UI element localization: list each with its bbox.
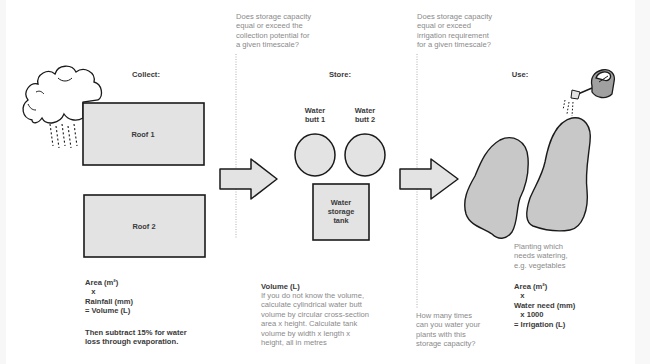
collect-evaporation-note: Then subtract 15% for water loss through… (85, 328, 187, 347)
store-formula-title: Volume (L) (261, 282, 300, 291)
collect-heading: Collect: (116, 70, 176, 79)
label-line: tank (313, 216, 369, 225)
formula-text-line: calculate cylindrical water butt (261, 300, 369, 309)
question-line: Does storage capacity (236, 12, 311, 21)
formula-text-line: If you do not know the volume, (261, 291, 369, 300)
formula-text-line: height, all in metres (261, 338, 369, 347)
collect-formula: Area (m²) x Rainfall (mm) = Volume (L) (85, 278, 133, 316)
divider-2-question: Does storage capacity equal or exceed ir… (417, 12, 492, 50)
question-line: How many times (416, 311, 480, 320)
use-formula: Area (m²) x Water need (mm) x 1000 = Irr… (514, 282, 575, 329)
arrow-right-icon (220, 159, 277, 199)
note-line: Then subtract 15% for water (85, 328, 187, 337)
label-line: butt 2 (345, 115, 385, 124)
use-formula-line: Area (m²) (514, 282, 575, 291)
roof-2-label: Roof 2 (104, 222, 184, 231)
use-formula-line: x (514, 291, 575, 300)
formula-text-line: volume by width x length x (261, 329, 369, 338)
question-line: can you water your (416, 320, 480, 329)
use-formula-line: Water need (mm) (514, 301, 575, 310)
formula-text-line: area x height. Calculate tank (261, 319, 369, 328)
planting-label-line: e.g. vegetables (514, 261, 568, 270)
question-line: equal or exceed the (236, 21, 311, 30)
planting-bed-2-shape (527, 118, 591, 231)
watering-can-icon (563, 70, 614, 116)
divider-1-question: Does storage capacity equal or exceed th… (236, 12, 311, 50)
store-formula-text: If you do not know the volume, calculate… (261, 291, 369, 347)
use-formula-line: = Irrigation (L) (514, 320, 575, 329)
label-line: Water (345, 106, 385, 115)
store-heading: Store: (310, 70, 370, 79)
question-line: irrigation requirement (417, 31, 492, 40)
water-butt-1-label: Water butt 1 (295, 106, 335, 124)
label-line: butt 1 (295, 115, 335, 124)
divider-2-bottom-question: How many times can you water your plants… (416, 311, 480, 349)
water-butt-2-label: Water butt 2 (345, 106, 385, 124)
roof-1-label: Roof 1 (103, 130, 183, 139)
question-line: storage capacity? (416, 339, 480, 348)
use-formula-line: x 1000 (514, 310, 575, 319)
question-line: collection potential for (236, 31, 311, 40)
label-line: Water (295, 106, 335, 115)
water-butt-2-shape (345, 134, 385, 176)
arrow-right-icon (400, 159, 458, 199)
planting-label-line: Planting which (514, 242, 568, 251)
collect-formula-line: x (85, 287, 133, 296)
collect-formula-line: = Volume (L) (85, 306, 133, 315)
planting-bed-1-shape (465, 138, 528, 239)
collect-formula-line: Rainfall (mm) (85, 297, 133, 306)
question-line: for a given timescale? (417, 40, 492, 49)
question-line: plants with this (416, 330, 480, 339)
water-butt-1-shape (295, 134, 335, 176)
question-line: a given timescale? (236, 40, 311, 49)
water-storage-tank-label: Water storage tank (313, 198, 369, 226)
formula-text-line: volume by circular cross-section (261, 310, 369, 319)
label-line: storage (313, 207, 369, 216)
label-line: Water (313, 198, 369, 207)
question-line: Does storage capacity (417, 12, 492, 21)
planting-label-line: needs watering, (514, 251, 568, 260)
planting-label: Planting which needs watering, e.g. vege… (514, 242, 568, 270)
use-heading: Use: (500, 70, 540, 79)
question-line: equal or exceed (417, 21, 492, 30)
collect-formula-line: Area (m²) (85, 278, 133, 287)
note-line: loss through evaporation. (85, 337, 187, 346)
